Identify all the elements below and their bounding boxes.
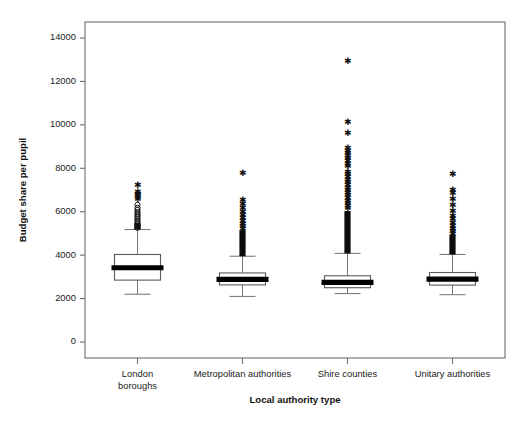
y-axis-tick-label: 10000 <box>50 118 76 129</box>
outlier-marker-star: ✱ <box>344 117 352 127</box>
chart-canvas: 02000400060008000100001200014000 ✱✱✱✱✱✱✱… <box>0 0 517 425</box>
box-plot-chart: 02000400060008000100001200014000 ✱✱✱✱✱✱✱… <box>0 0 517 425</box>
y-axis-tick-label: 14000 <box>50 31 76 42</box>
y-axis-title: Budget share per pupil <box>17 138 28 242</box>
x-axis-tick-label: boroughs <box>118 380 157 391</box>
y-axis-tick-label: 6000 <box>55 205 76 216</box>
x-axis-tick-label: Metropolitan authorities <box>194 368 292 379</box>
outlier-marker-star: ✱ <box>344 56 352 66</box>
chart-background <box>0 0 517 425</box>
x-axis-tick-label: Unitary authorities <box>415 368 491 379</box>
outlier-marker-star: ✱ <box>449 229 457 239</box>
outlier-dense-cluster <box>344 211 350 253</box>
outlier-marker-star: ✱ <box>449 169 457 179</box>
outlier-marker-star: ✱ <box>344 128 352 138</box>
outlier-marker-star: ✱ <box>134 194 142 204</box>
y-axis-tick-label: 4000 <box>55 249 76 260</box>
x-axis-tick-label: London <box>122 368 153 379</box>
outlier-marker-star: ✱ <box>239 168 247 178</box>
y-axis-tick-label: 8000 <box>55 162 76 173</box>
outlier-dense-cluster <box>239 230 245 256</box>
x-axis-tick-label: Shire counties <box>318 368 378 379</box>
y-axis-tick-label: 2000 <box>55 292 76 303</box>
y-axis-tick-label: 0 <box>71 335 76 346</box>
outlier-marker-star: ✱ <box>344 203 352 213</box>
x-axis-title: Local authority type <box>249 394 340 405</box>
outlier-marker-star: ✱ <box>239 224 247 234</box>
y-axis-tick-label: 12000 <box>50 75 76 86</box>
